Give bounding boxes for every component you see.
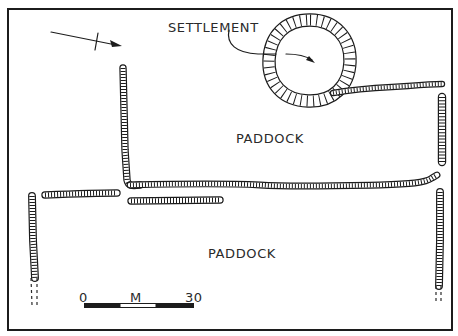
wall-east-lower [439, 192, 440, 286]
scale-end-label: 30 [185, 290, 203, 305]
wall-short-horizontal-central [131, 200, 220, 201]
paddock-upper-label: PADDOCK [236, 131, 304, 146]
scale-start-label: 0 [79, 290, 88, 305]
scale-segment-3 [156, 303, 194, 308]
site-plan: SETTLEMENT PADDOCK PADDOCK 0 M 30 [0, 0, 458, 336]
scale-segment-2 [120, 304, 156, 308]
scale-unit-label: M [130, 290, 142, 305]
map-frame [8, 9, 452, 330]
wall-short-horizontal-west [45, 193, 117, 195]
wall-east-lower-fill [439, 192, 440, 286]
paddock-lower-label: PADDOCK [208, 246, 276, 261]
settlement-label: SETTLEMENT [168, 20, 259, 35]
scale-segment-1 [84, 303, 120, 308]
wall-west-vertical [32, 196, 35, 278]
